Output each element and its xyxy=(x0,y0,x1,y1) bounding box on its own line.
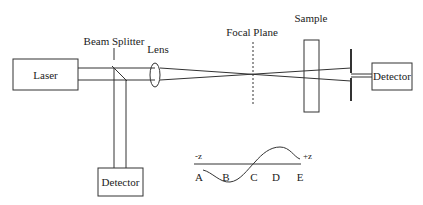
beam-splitter-label: Beam Splitter xyxy=(84,35,145,47)
inset-point-e: E xyxy=(297,171,304,183)
z-scan-diagram: Laser Beam Splitter Lens Focal Plane Sam… xyxy=(0,0,423,205)
laser-label: Laser xyxy=(33,69,58,81)
focal-plane-label: Focal Plane xyxy=(226,26,278,38)
detector-right-label: Detector xyxy=(373,70,411,82)
inset-point-b: B xyxy=(222,171,229,183)
inset-point-c: C xyxy=(250,171,257,183)
inset-point-a: A xyxy=(195,171,203,183)
sample-box xyxy=(304,40,319,112)
inset-minus-z-label: -z xyxy=(195,151,202,161)
lens-shape xyxy=(150,63,160,87)
detector-bottom-label: Detector xyxy=(102,176,140,188)
inset-point-d: D xyxy=(272,171,280,183)
sample-label: Sample xyxy=(295,12,328,24)
lens-label: Lens xyxy=(147,43,168,55)
inset-plus-z-label: +z xyxy=(303,151,312,161)
